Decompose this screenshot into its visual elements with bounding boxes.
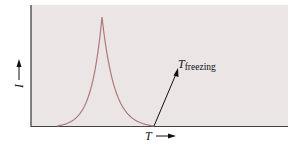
y-arrowhead <box>17 59 22 67</box>
chart: Tfreezing I T <box>0 0 291 153</box>
x-axis-label: T <box>145 129 153 143</box>
plot-area <box>31 5 288 126</box>
y-axis-label: I <box>12 83 26 89</box>
x-arrowhead <box>168 134 176 139</box>
